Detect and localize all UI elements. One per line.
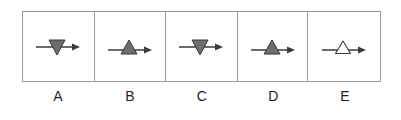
option-label-slot-d: D <box>238 86 309 112</box>
arrow-head-icon <box>287 46 295 53</box>
option-label-e: E <box>340 86 350 106</box>
option-labels-row: A B C D E <box>22 86 381 112</box>
option-cell-e[interactable] <box>308 12 380 81</box>
option-label-a: A <box>53 86 63 106</box>
answer-options-figure: A B C D E <box>0 0 401 120</box>
option-cell-d[interactable] <box>238 12 309 81</box>
arrow-head-icon <box>358 46 366 53</box>
option-cell-b[interactable] <box>95 12 167 81</box>
option-label-slot-a: A <box>22 86 94 112</box>
options-strip <box>22 11 381 82</box>
option-cell-c[interactable] <box>166 12 238 81</box>
option-label-c: C <box>197 86 207 106</box>
option-label-slot-c: C <box>166 86 238 112</box>
triangle-up-outline-icon <box>336 41 351 54</box>
option-c-glyph <box>177 32 225 62</box>
triangle-up-filled-icon <box>121 40 137 54</box>
option-a-glyph <box>34 32 82 62</box>
triangle-up-filled-icon <box>264 40 280 54</box>
option-b-glyph <box>106 32 154 62</box>
option-d-glyph <box>249 32 297 62</box>
option-e-glyph <box>320 32 368 62</box>
arrow-head-icon <box>144 46 152 53</box>
arrow-head-icon <box>72 43 80 50</box>
option-cell-a[interactable] <box>23 12 95 81</box>
option-label-slot-e: E <box>309 86 381 112</box>
option-label-b: B <box>125 86 135 106</box>
option-label-d: D <box>268 86 278 106</box>
arrow-head-icon <box>215 43 223 50</box>
option-label-slot-b: B <box>94 86 166 112</box>
